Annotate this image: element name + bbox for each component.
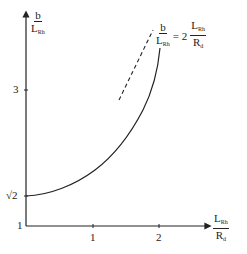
- x-label-num-sub: Rh: [221, 219, 228, 225]
- asymptote-dashed: [119, 30, 153, 100]
- x-label-num: L: [214, 212, 221, 224]
- y-label-num: b: [34, 10, 42, 22]
- eq-num: b: [159, 22, 167, 34]
- y-label-den: L: [31, 22, 38, 34]
- eq-den-sub: Rh: [163, 41, 170, 47]
- tick-label-x1: 1: [90, 232, 96, 243]
- y-axis-label: b LRh: [31, 10, 45, 38]
- chart-canvas: [0, 0, 247, 254]
- tick-label-ysqrt2: √2: [6, 190, 18, 201]
- tick-label-y1: 1: [17, 220, 23, 231]
- eq-den: L: [156, 34, 163, 46]
- curve: [26, 48, 160, 196]
- y-label-den-sub: Rh: [38, 29, 45, 35]
- asymptote-equation: b LRh = 2 LRh Rd: [156, 20, 206, 52]
- eq-mid: = 2: [173, 30, 187, 42]
- x-axis-label: LRh Rd: [213, 213, 229, 245]
- tick-label-y3: 3: [13, 84, 19, 95]
- x-label-den-sub: d: [223, 236, 226, 242]
- eq-rnum: L: [191, 19, 198, 31]
- eq-rnum-sub: Rh: [198, 26, 205, 32]
- x-label-den: R: [216, 229, 223, 241]
- tick-label-x2: 2: [156, 232, 162, 243]
- eq-rden-sub: d: [200, 43, 203, 49]
